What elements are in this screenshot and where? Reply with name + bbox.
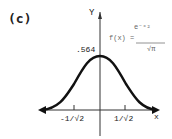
panel-label: (c) <box>8 12 31 25</box>
gaussian-curve <box>42 56 156 110</box>
formula-lhs: f(x) = <box>109 35 134 42</box>
tick-label-negative: -1/√2 <box>60 115 84 123</box>
x-axis-label: x <box>154 113 159 121</box>
y-axis-label: Y <box>89 9 94 18</box>
formula-numerator: e⁻ˣ² <box>134 24 151 31</box>
peak-value-label: .564 <box>76 46 95 54</box>
y-axis-arrow-icon <box>98 12 102 19</box>
left-arrow-icon <box>38 106 46 114</box>
tick-label-positive: 1/√2 <box>114 115 133 123</box>
formula-denominator: √π <box>147 46 155 53</box>
